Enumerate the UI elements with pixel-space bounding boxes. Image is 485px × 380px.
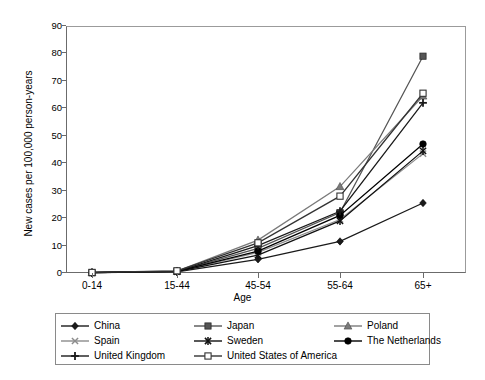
legend-label: The Netherlands — [367, 336, 441, 346]
legend-marker-icon — [193, 334, 223, 348]
x-tick-mark — [423, 273, 424, 278]
y-tick-label: 80 — [36, 48, 62, 58]
x-tick-mark — [177, 273, 178, 278]
legend: ChinaJapanPolandSpainSwedenThe Netherlan… — [55, 313, 430, 365]
y-tick-label: 50 — [36, 131, 62, 141]
legend-item: Sweden — [193, 333, 333, 348]
y-tick-mark — [62, 52, 66, 53]
x-axis-label: Age — [0, 292, 485, 303]
legend-item: Japan — [193, 318, 333, 333]
legend-item: Spain — [60, 333, 193, 348]
legend-marker-icon — [193, 349, 223, 363]
legend-item: Poland — [333, 318, 425, 333]
y-tick-label: 70 — [36, 76, 62, 86]
x-tick-label: 45-54 — [245, 280, 271, 291]
y-tick-mark — [62, 272, 66, 273]
legend-marker-icon — [333, 334, 363, 348]
legend-label: Sweden — [227, 336, 263, 346]
x-tick-mark — [340, 273, 341, 278]
plot-region: 0102030405060708090 0-1415-4445-5455-646… — [0, 0, 485, 305]
y-tick-label: 10 — [36, 241, 62, 251]
legend-marker-icon — [60, 319, 90, 333]
y-tick-mark — [62, 162, 66, 163]
legend-marker-icon — [193, 319, 223, 333]
legend-item: The Netherlands — [333, 333, 425, 348]
legend-item: China — [60, 318, 193, 333]
y-tick-label: 0 — [36, 268, 62, 278]
y-tick-mark — [62, 190, 66, 191]
y-tick-mark — [62, 135, 66, 136]
x-tick-mark — [92, 273, 93, 278]
x-tick-label: 65+ — [415, 280, 432, 291]
chart-figure: 0102030405060708090 0-1415-4445-5455-646… — [0, 0, 485, 380]
legend-grid: ChinaJapanPolandSpainSwedenThe Netherlan… — [60, 318, 425, 362]
y-tick-label: 60 — [36, 103, 62, 113]
legend-label: United States of America — [227, 351, 337, 361]
legend-label: Poland — [367, 321, 398, 331]
legend-label: United Kingdom — [94, 351, 165, 361]
y-tick-mark — [62, 217, 66, 218]
y-tick-mark — [62, 245, 66, 246]
y-tick-label: 20 — [36, 213, 62, 223]
series-sweden — [89, 147, 426, 277]
y-tick-mark — [62, 80, 66, 81]
y-tick-label: 30 — [36, 186, 62, 196]
legend-label: Japan — [227, 321, 254, 331]
y-tick-mark — [62, 25, 66, 26]
legend-label: China — [94, 321, 120, 331]
legend-label: Spain — [94, 336, 120, 346]
y-tick-mark — [62, 107, 66, 108]
x-tick-mark — [258, 273, 259, 278]
series-canvas — [0, 0, 485, 305]
y-axis-label: New cases per 100,000 person-years — [23, 49, 34, 259]
legend-marker-icon — [60, 349, 90, 363]
legend-item: United States of America — [193, 348, 333, 363]
x-tick-label: 55-64 — [327, 280, 353, 291]
x-tick-label: 15-44 — [164, 280, 190, 291]
x-tick-label: 0-14 — [82, 280, 102, 291]
legend-marker-icon — [60, 334, 90, 348]
legend-marker-icon — [333, 319, 363, 333]
legend-item: United Kingdom — [60, 348, 193, 363]
y-tick-label: 90 — [36, 21, 62, 31]
y-tick-label: 40 — [36, 158, 62, 168]
